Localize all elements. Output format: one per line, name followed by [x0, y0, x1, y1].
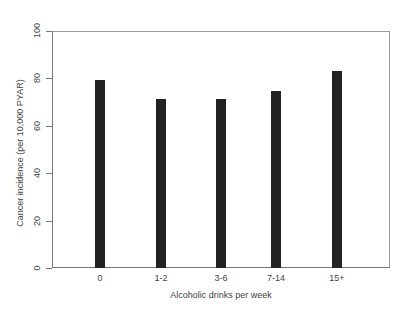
- bar-1-2: [156, 99, 166, 268]
- x-tick-label: 7-14: [256, 273, 296, 283]
- y-axis-title: Cancer incidence (per 10,000 PYAR): [15, 53, 25, 253]
- y-tick-label: 60: [27, 119, 47, 133]
- y-tick-label: 20: [27, 214, 47, 228]
- x-tick-label: 3-6: [201, 273, 241, 283]
- x-axis-title: Alcoholic drinks per week: [52, 290, 390, 300]
- bar-0: [95, 80, 105, 268]
- x-tick-label: 0: [80, 273, 120, 283]
- y-tick-label: 100: [27, 24, 47, 38]
- x-tick-label: 1-2: [141, 273, 181, 283]
- x-tick-label: 15+: [317, 273, 357, 283]
- bar-3-6: [216, 99, 226, 268]
- bar-15+: [332, 71, 342, 268]
- y-tick-label: 0: [27, 261, 47, 275]
- bar-7-14: [271, 91, 281, 268]
- y-tick-label: 80: [27, 71, 47, 85]
- y-tick-label: 40: [27, 166, 47, 180]
